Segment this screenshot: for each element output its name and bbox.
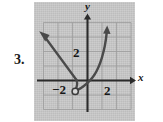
x-axis-label: x (138, 72, 144, 83)
graph-svg (0, 0, 163, 122)
y-axis (84, 14, 91, 113)
open-point-marker (72, 88, 78, 94)
y-axis-label: y (85, 1, 90, 12)
figure-root: 3. (0, 0, 163, 122)
y-tick-label-2: 2 (73, 46, 80, 59)
x-tick-label-neg2: −2 (52, 83, 66, 96)
x-tick-label-2: 2 (104, 84, 111, 97)
